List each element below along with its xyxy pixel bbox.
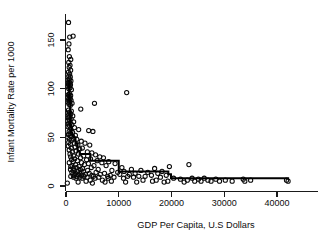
data-point bbox=[93, 153, 97, 157]
y-tick-label: 0 bbox=[46, 183, 56, 188]
data-point bbox=[141, 178, 145, 182]
y-tick-label: 150 bbox=[46, 32, 56, 47]
data-point bbox=[83, 141, 87, 145]
x-tick-label: 10000 bbox=[106, 198, 131, 208]
data-point bbox=[109, 179, 113, 183]
x-tick-label: 0 bbox=[63, 198, 68, 208]
data-point bbox=[125, 90, 129, 94]
data-point bbox=[79, 107, 83, 111]
data-point bbox=[76, 180, 80, 184]
data-point bbox=[135, 180, 139, 184]
x-tick-label: 20000 bbox=[159, 198, 184, 208]
data-point bbox=[80, 146, 84, 150]
data-point bbox=[230, 179, 234, 183]
data-point bbox=[113, 162, 117, 166]
data-point bbox=[88, 143, 92, 147]
step-regression-line bbox=[68, 81, 290, 178]
data-point bbox=[193, 179, 197, 183]
data-point bbox=[153, 166, 157, 170]
y-tick-label: 100 bbox=[46, 81, 56, 96]
data-point bbox=[158, 175, 162, 179]
data-point bbox=[67, 42, 71, 46]
data-point bbox=[167, 164, 171, 168]
x-tick-label: 40000 bbox=[264, 198, 289, 208]
data-point bbox=[131, 175, 135, 179]
data-point bbox=[137, 174, 141, 178]
data-point bbox=[77, 127, 81, 131]
x-axis-ticks: 010000200003000040000 bbox=[63, 192, 289, 209]
scatter-plot-figure: 050100150 010000200003000040000 GDP Per … bbox=[0, 0, 326, 242]
data-point bbox=[149, 173, 153, 177]
data-point bbox=[87, 128, 91, 132]
y-tick-label: 50 bbox=[46, 132, 56, 142]
data-point bbox=[84, 179, 88, 183]
chart-canvas: 050100150 010000200003000040000 GDP Per … bbox=[0, 0, 326, 242]
data-point bbox=[104, 163, 108, 167]
data-point bbox=[66, 20, 70, 24]
data-point bbox=[92, 101, 96, 105]
data-point bbox=[124, 180, 128, 184]
x-tick-label: 30000 bbox=[212, 198, 237, 208]
data-point bbox=[217, 179, 221, 183]
x-axis-title: GDP Per Capita, U.S Dollars bbox=[137, 220, 255, 230]
data-point bbox=[66, 48, 70, 52]
y-axis-title: Infant Mortality Rate per 1000 bbox=[6, 41, 16, 162]
data-point bbox=[91, 129, 95, 133]
data-point bbox=[110, 168, 114, 172]
data-point bbox=[187, 162, 191, 166]
data-point bbox=[112, 175, 116, 179]
y-axis-ticks: 050100150 bbox=[46, 32, 65, 188]
